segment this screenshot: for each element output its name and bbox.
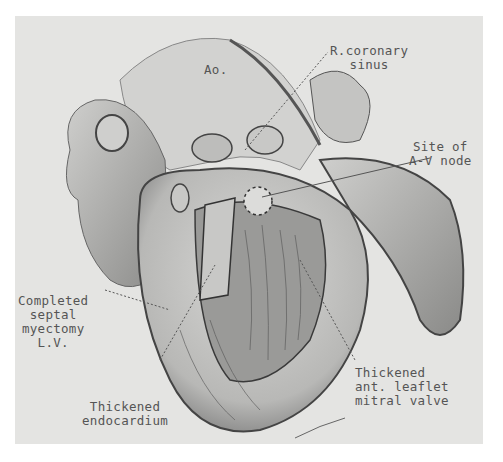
label-av-node: Site of A-V node (409, 140, 472, 168)
label-thickened-mitral-leaflet: Thickened ant. leaflet mitral valve (355, 366, 449, 408)
label-r-coronary-sinus: R.coronary sinus (330, 44, 408, 72)
label-aorta: Ao. (204, 63, 227, 77)
av-node-marker (244, 187, 272, 215)
label-septal-myectomy: Completed septal myectomy L.V. (18, 294, 88, 350)
label-thickened-endocardium: Thickened endocardium (82, 400, 168, 428)
